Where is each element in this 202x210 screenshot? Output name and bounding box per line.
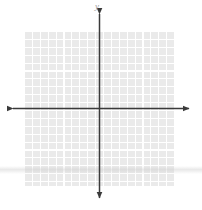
y-axis-label: y — [95, 1, 99, 11]
coordinate-plane-figure: y — [0, 0, 202, 210]
axes-overlay — [0, 0, 202, 210]
